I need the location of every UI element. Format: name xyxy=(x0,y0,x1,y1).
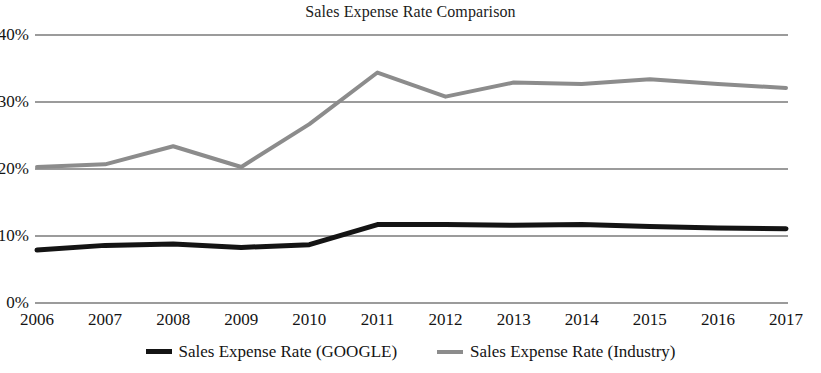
legend-item[interactable]: Sales Expense Rate (Industry) xyxy=(437,342,675,361)
series-line xyxy=(37,73,786,167)
y-axis-tick-label: 40% xyxy=(0,26,29,43)
y-axis-tick-label: 0% xyxy=(6,294,29,311)
legend-item-label: Sales Expense Rate (GOOGLE) xyxy=(179,342,398,361)
x-axis-tick-label: 2017 xyxy=(746,311,821,328)
series-line xyxy=(37,225,786,250)
legend-line-icon xyxy=(437,350,463,354)
legend-line-icon xyxy=(146,349,172,354)
gridlines xyxy=(35,35,788,303)
y-axis-tick-label: 20% xyxy=(0,160,29,177)
legend-item-label: Sales Expense Rate (Industry) xyxy=(470,342,675,361)
y-axis-tick-label: 10% xyxy=(0,227,29,244)
y-axis-tick-label: 30% xyxy=(0,93,29,110)
sales-expense-rate-chart: Sales Expense Rate Comparison 40%30%20%1… xyxy=(0,0,821,373)
series-lines xyxy=(37,73,786,251)
legend-item[interactable]: Sales Expense Rate (GOOGLE) xyxy=(146,342,398,361)
chart-legend: Sales Expense Rate (GOOGLE)Sales Expense… xyxy=(0,342,821,361)
